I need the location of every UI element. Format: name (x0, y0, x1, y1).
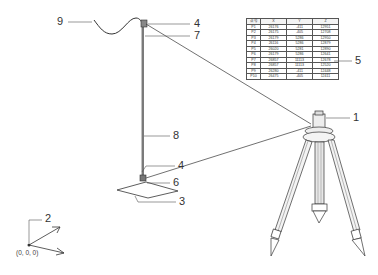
callout-7: 7 (194, 30, 200, 41)
cell: P10 (247, 74, 261, 80)
callout-4-top: 4 (194, 18, 200, 29)
origin-label: (0, 0, 0) (16, 249, 38, 256)
callout-1: 1 (353, 112, 359, 123)
cell: 26475 (261, 74, 287, 80)
callout-3: 3 (179, 196, 185, 207)
cell: -405 (287, 74, 313, 80)
callout-5: 5 (355, 55, 361, 66)
coordinate-table: 点号 X Y Z P126176-41112951 P226175-405127… (246, 18, 339, 80)
cable (94, 18, 143, 34)
base-plate (117, 182, 178, 198)
cell: 12411 (313, 74, 339, 80)
callout-8: 8 (173, 130, 179, 141)
top-target (141, 20, 147, 27)
callout-4-bottom: 4 (178, 160, 184, 171)
laser-line-bottom (146, 126, 311, 178)
table-row: P1026475-40512411 (247, 74, 339, 80)
callout-9: 9 (57, 16, 63, 27)
callout-2: 2 (45, 213, 51, 224)
bottom-target (140, 175, 146, 181)
tripod-scanner (271, 111, 365, 256)
callout-6: 6 (173, 177, 179, 188)
